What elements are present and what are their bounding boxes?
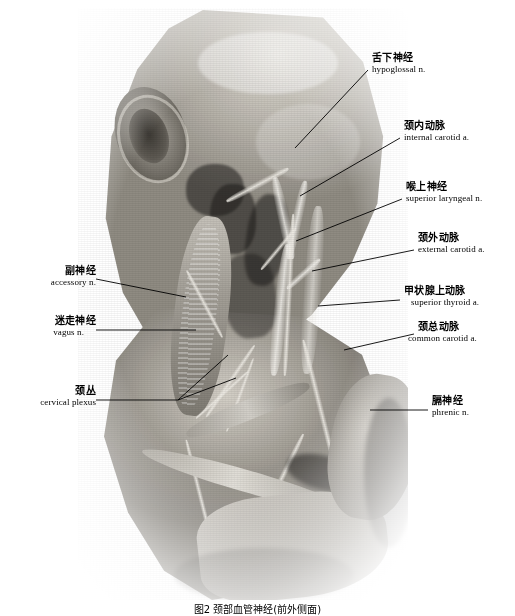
label-en: vagus n.: [0, 327, 96, 338]
label-cn: 颈内动脉: [404, 120, 469, 132]
label-cn: 颈总动脉: [418, 321, 477, 333]
label-cn: 甲状腺上动脉: [404, 285, 479, 297]
label-cn: 副神经: [0, 265, 96, 277]
cheek-highlight: [256, 104, 360, 180]
label-cervical-plexus: 颈丛 cervical plexus: [0, 385, 96, 407]
label-cn: 颈丛: [0, 385, 96, 397]
label-en: accessory n.: [0, 277, 96, 288]
label-cn: 膈神经: [432, 395, 469, 407]
label-superior-laryngeal-nerve: 喉上神经 superior laryngeal n.: [406, 181, 482, 203]
label-cn: 迷走神经: [0, 315, 96, 327]
label-internal-carotid-artery: 颈内动脉 internal carotid a.: [404, 120, 469, 142]
lateral-shadow: [364, 398, 408, 548]
label-en: superior laryngeal n.: [406, 193, 482, 204]
label-cn: 颈外动脉: [418, 232, 485, 244]
mandible-highlight: [198, 32, 338, 94]
label-en: internal carotid a.: [404, 132, 469, 143]
label-en: cervical plexus: [0, 397, 96, 408]
label-accessory-nerve: 副神经 accessory n.: [0, 265, 96, 287]
label-cn: 舌下神经: [372, 52, 425, 64]
label-hypoglossal-nerve: 舌下神经 hypoglossal n.: [372, 52, 425, 74]
specimen-photograph: [78, 8, 408, 600]
label-phrenic-nerve: 膈神经 phrenic n.: [432, 395, 469, 417]
label-en: common carotid a.: [408, 333, 477, 344]
label-superior-thyroid-artery: 甲状腺上动脉 superior thyroid a.: [404, 285, 479, 307]
inferior-shadow: [174, 548, 354, 600]
figure-caption: 图2 颈部血管神经(前外侧面): [0, 601, 515, 616]
label-vagus-nerve: 迷走神经 vagus n.: [0, 315, 96, 337]
label-en: superior thyroid a.: [404, 297, 479, 308]
label-external-carotid-artery: 颈外动脉 external carotid a.: [418, 232, 485, 254]
label-en: external carotid a.: [418, 244, 485, 255]
anatomy-figure: 舌下神经 hypoglossal n. 颈内动脉 internal caroti…: [0, 0, 515, 616]
label-en: phrenic n.: [432, 407, 469, 418]
label-en: hypoglossal n.: [372, 64, 425, 75]
label-common-carotid-artery: 颈总动脉 common carotid a.: [418, 321, 477, 343]
label-cn: 喉上神经: [406, 181, 482, 193]
